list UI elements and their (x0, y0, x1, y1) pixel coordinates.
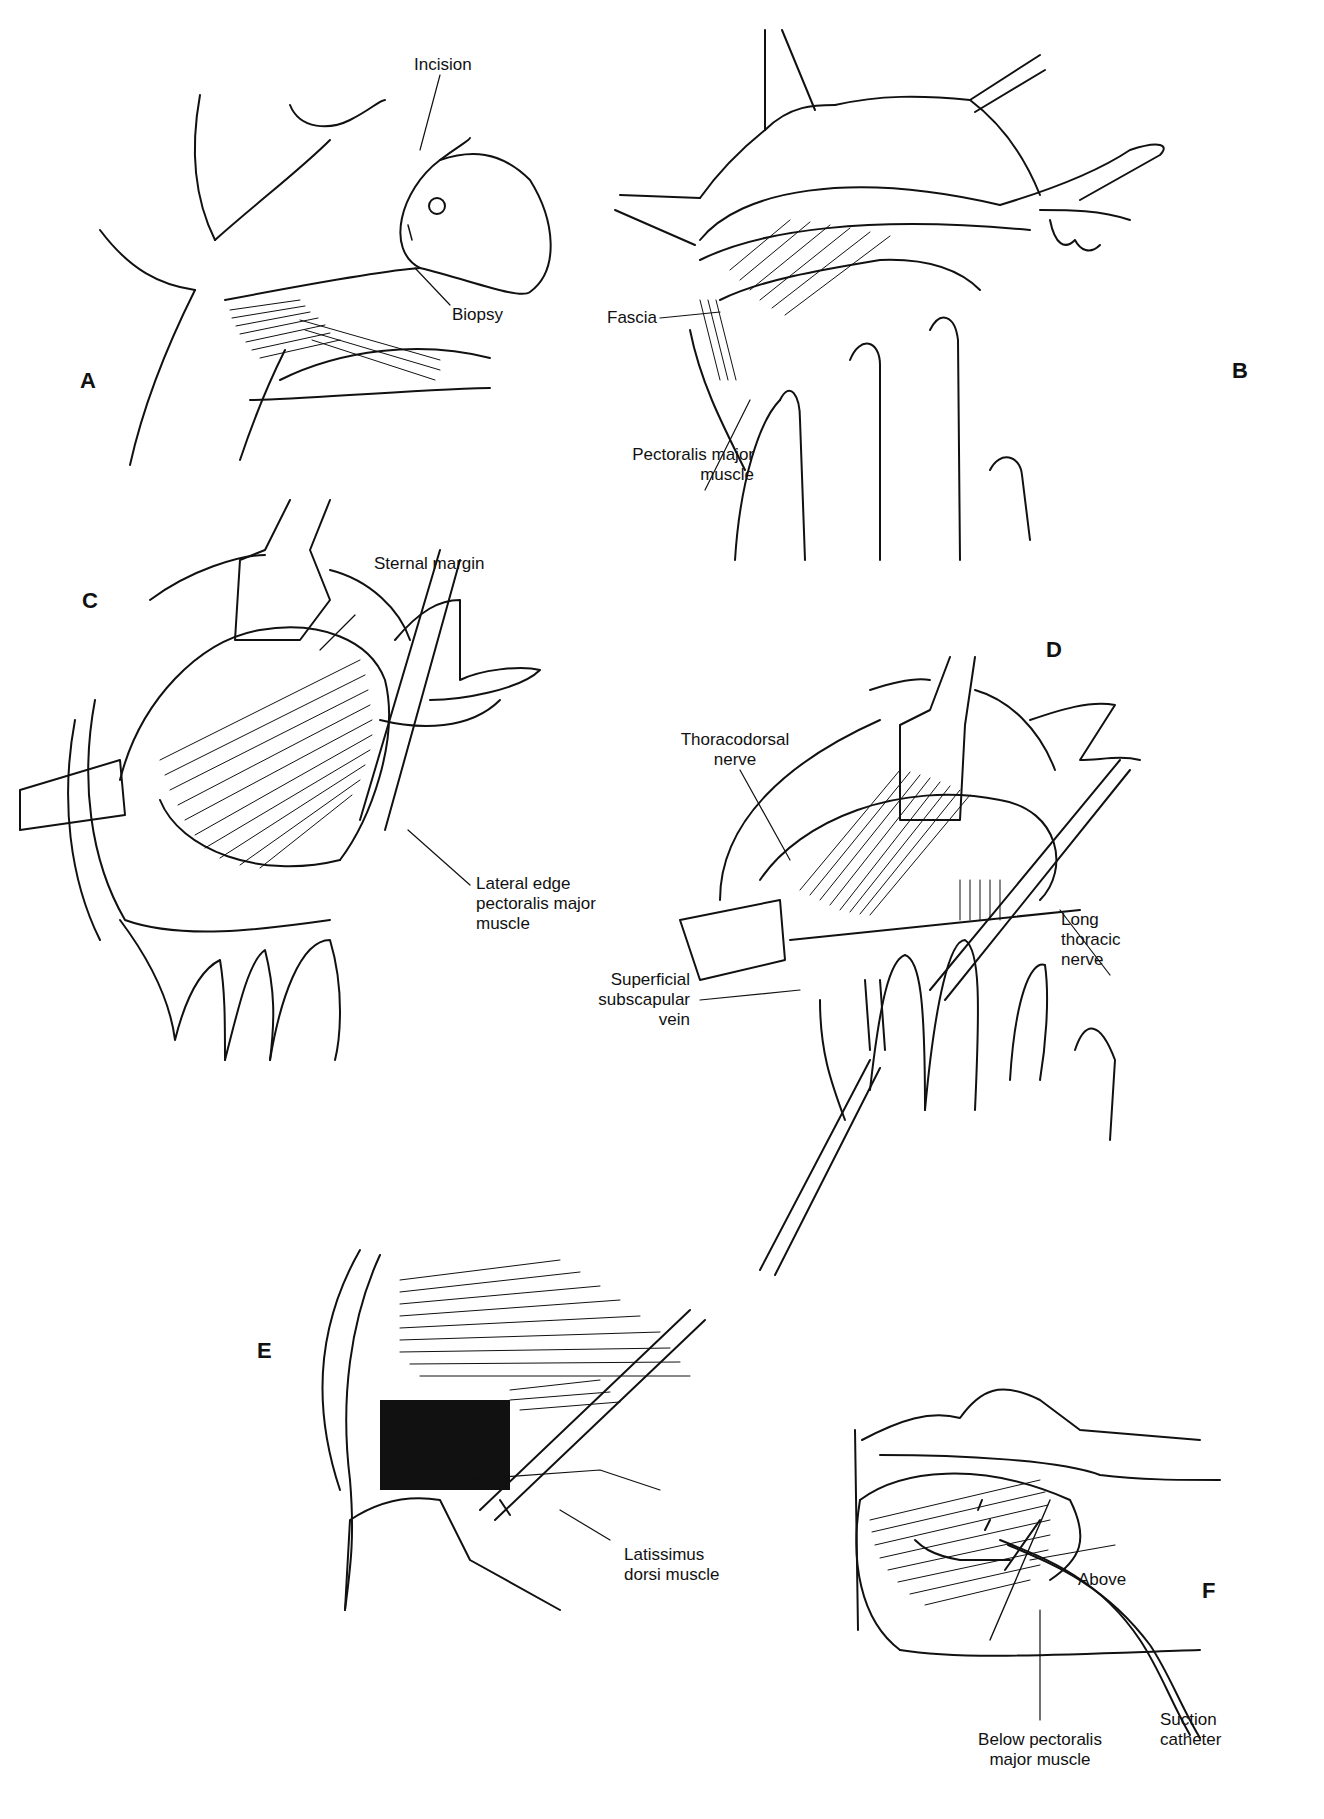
label-lateral-edge-line3: muscle (476, 914, 530, 934)
label-suction-catheter-line1: Suction (1160, 1710, 1217, 1730)
label-lateral-edge-line2: pectoralis major (476, 894, 596, 914)
label-long-thoracic-line3: nerve (1061, 950, 1104, 970)
panel-c-drawing (20, 500, 540, 1060)
label-fascia: Fascia (607, 308, 657, 328)
label-sternal-margin: Sternal margin (374, 554, 485, 574)
label-thoracodorsal-line2: nerve (660, 750, 810, 770)
label-long-thoracic-line1: Long (1061, 910, 1099, 930)
label-below-pectoralis-line1: Below pectoralis (960, 1730, 1120, 1750)
panel-f-drawing (855, 1390, 1220, 1738)
panel-e-letter: E (257, 1338, 272, 1364)
label-latissimus-line2: dorsi muscle (624, 1565, 719, 1585)
panel-e-dark-cavity (380, 1400, 510, 1490)
label-superficial-subscapular-line2: subscapular (590, 990, 690, 1010)
panel-e-hatching (400, 1260, 690, 1410)
label-lateral-edge-line1: Lateral edge (476, 874, 571, 894)
label-long-thoracic-line2: thoracic (1061, 930, 1121, 950)
panel-a-drawing (100, 95, 551, 465)
label-suction-catheter-line2: catheter (1160, 1730, 1221, 1750)
panel-b-letter: B (1232, 358, 1248, 384)
label-thoracodorsal-line1: Thoracodorsal (660, 730, 810, 750)
label-pectoralis-major-line1: Pectoralis major (590, 445, 754, 465)
panel-d-letter: D (1046, 637, 1062, 663)
label-incision: Incision (414, 55, 472, 75)
panel-a-letter: A (80, 368, 96, 394)
panel-c-letter: C (82, 588, 98, 614)
label-latissimus-line1: Latissimus (624, 1545, 704, 1565)
label-biopsy: Biopsy (452, 305, 503, 325)
panel-a-hatching (230, 300, 440, 380)
panel-f-letter: F (1202, 1578, 1215, 1604)
panel-b-hatching (700, 220, 890, 380)
panel-c-hatching (160, 660, 372, 868)
label-below-pectoralis-line2: major muscle (960, 1750, 1120, 1770)
label-superficial-subscapular-line1: Superficial (590, 970, 690, 990)
label-superficial-subscapular-line3: vein (590, 1010, 690, 1030)
label-pectoralis-major-line2: muscle (590, 465, 754, 485)
label-above: Above (1078, 1570, 1126, 1590)
panel-f-hatching (870, 1480, 1050, 1605)
